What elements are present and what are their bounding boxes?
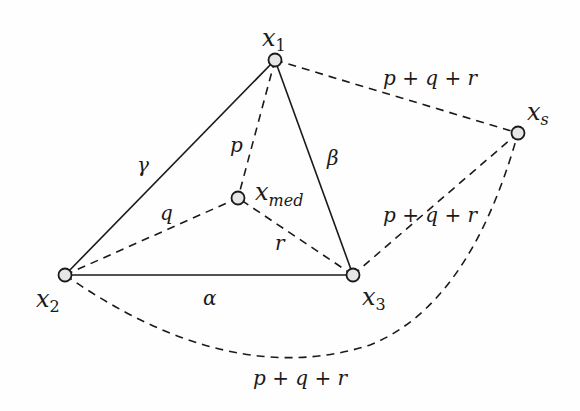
label-x2-xs: p + q + r — [253, 366, 349, 390]
node-xmed — [232, 192, 245, 205]
label-gamma: γ — [137, 153, 149, 177]
edge-gamma — [65, 60, 275, 275]
label-x1-xs: p + q + r — [383, 66, 479, 90]
label-x3: x3 — [362, 283, 386, 314]
label-x1: x1 — [262, 24, 286, 55]
label-beta: β — [326, 146, 339, 170]
node-x3 — [347, 269, 360, 282]
label-x2: x2 — [36, 285, 60, 316]
label-x3-xs: p + q + r — [383, 203, 479, 227]
label-r: r — [275, 231, 286, 255]
node-x2 — [59, 269, 72, 282]
node-xs — [512, 127, 525, 140]
edge-q — [65, 198, 238, 275]
triangle-median-diagram: x1 x2 x3 xmed xs γ β α p q r p + q + r p… — [0, 0, 580, 411]
label-q: q — [160, 201, 173, 225]
label-alpha: α — [203, 286, 217, 310]
label-p: p — [230, 133, 243, 157]
edge-beta — [275, 60, 353, 275]
label-xmed: xmed — [255, 178, 303, 210]
diagram-canvas: x1 x2 x3 xmed xs γ β α p q r p + q + r p… — [0, 0, 580, 411]
node-x1 — [269, 54, 282, 67]
label-xs: xs — [527, 98, 549, 129]
